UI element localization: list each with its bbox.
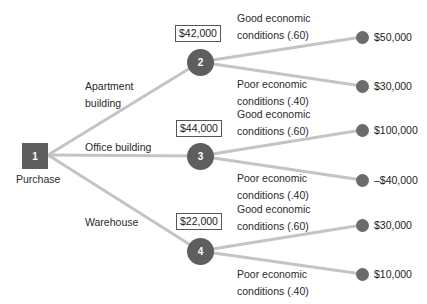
outcome-label-2-good: Good economic conditions (.60) [237, 10, 311, 44]
edge-warehouse [48, 155, 200, 251]
alt-label-apartment: Apartment building [85, 78, 133, 112]
outcome-line: Poor economic [237, 76, 309, 93]
root-label: Purchase [16, 171, 60, 188]
payoff-2-good: $50,000 [374, 30, 412, 44]
end-node-2-good [356, 31, 369, 44]
end-node-3-poor [356, 174, 369, 187]
chance-node-3: 3 [187, 143, 214, 170]
payoff-3-poor: –$40,000 [374, 173, 418, 187]
outcome-line: Poor economic [237, 266, 309, 283]
outcome-line: conditions (.40) [237, 283, 309, 300]
payoff-2-poor: $30,000 [374, 79, 412, 93]
chance-node-id: 2 [198, 57, 204, 68]
outcome-line: Poor economic [237, 170, 309, 187]
payoff-3-good: $100,000 [374, 123, 418, 137]
end-node-4-good [356, 219, 369, 232]
expected-value-4: $22,000 [176, 213, 222, 230]
chance-node-id: 3 [198, 151, 204, 162]
end-node-3-good [356, 124, 369, 137]
outcome-line: conditions (.60) [237, 27, 311, 44]
payoff-4-poor: $10,000 [374, 267, 412, 281]
outcome-line: conditions (.60) [237, 123, 311, 140]
outcome-label-3-good: Good economic conditions (.60) [237, 106, 311, 140]
alt-label-warehouse: Warehouse [85, 214, 138, 231]
chance-node-2: 2 [187, 49, 214, 76]
chance-node-4: 4 [187, 238, 214, 265]
chance-node-id: 4 [198, 246, 204, 257]
outcome-line: Good economic [237, 201, 311, 218]
outcome-label-2-poor: Poor economic conditions (.40) [237, 76, 309, 110]
outcome-line: Good economic [237, 10, 311, 27]
outcome-line: conditions (.60) [237, 218, 311, 235]
outcome-line: Good economic [237, 106, 311, 123]
alt-label-line: building [85, 95, 133, 112]
expected-value-3: $44,000 [176, 120, 222, 137]
outcome-label-4-good: Good economic conditions (.60) [237, 201, 311, 235]
decision-node-id: 1 [32, 151, 38, 162]
end-node-4-poor [356, 268, 369, 281]
alt-label-line: Apartment [85, 78, 133, 95]
alt-label-office: Office building [85, 139, 151, 156]
end-node-2-poor [356, 80, 369, 93]
outcome-label-3-poor: Poor economic conditions (.40) [237, 170, 309, 204]
decision-node-1: 1 [22, 143, 48, 169]
payoff-4-good: $30,000 [374, 218, 412, 232]
expected-value-2: $42,000 [175, 25, 221, 42]
outcome-label-4-poor: Poor economic conditions (.40) [237, 266, 309, 300]
